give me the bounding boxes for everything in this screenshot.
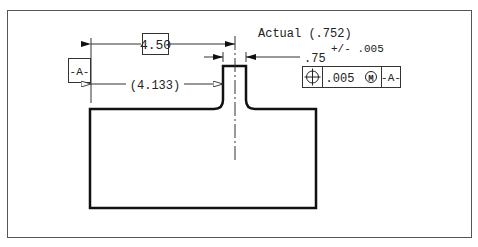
svg-text:M: M (368, 74, 373, 84)
part-outline (90, 66, 316, 208)
tolerance-text: +/- .005 (331, 43, 384, 55)
basic-dim-text: 4.50 (140, 38, 171, 53)
datum-label: -A- (70, 66, 90, 78)
width-dim-text: .75 (304, 52, 326, 66)
fcf-datum: -A- (381, 72, 401, 84)
actual-label: Actual (.752) (258, 27, 352, 41)
drawing-frame (8, 11, 472, 238)
feature-control-frame: .005 M -A- (303, 67, 401, 88)
engineering-drawing: 4.50 -A- (4.133) Actual (.752) .75 +/- .… (0, 0, 478, 247)
fcf-tolerance: .005 (326, 72, 355, 86)
ref-dim-text: (4.133) (130, 79, 180, 93)
